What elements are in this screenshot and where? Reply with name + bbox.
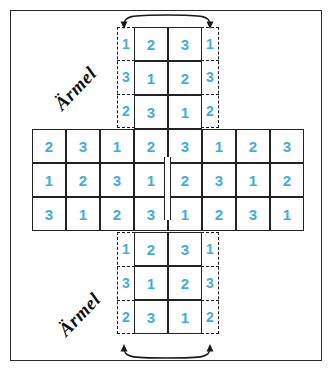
table-cell: 1 [66,197,100,231]
table-cell: 3 [134,300,168,334]
table-cell: 1 [134,61,168,95]
table-cell: 2 [168,163,202,197]
table-cell: 3 [168,129,202,163]
table-cell: 3 [134,95,168,129]
top-left-margin-value-1: 1 [117,27,135,60]
center-seam-line [164,157,171,220]
table-cell: 2 [134,232,168,266]
table-cell: 1 [236,163,270,197]
table-cell: 2 [66,163,100,197]
table-cell: 2 [270,163,304,197]
table-cell: 3 [168,232,202,266]
table-cell: 3 [270,129,304,163]
table-cell: 1 [134,163,168,197]
table-cell: 3 [32,197,66,231]
sleeve-label-top: Ärmel [50,63,101,115]
pattern-stage: 1 3 2 1 3 2 2 3 1 2 3 1 2 3 1 2 3 1 2 3 … [0,0,334,373]
bottom-right-margin-value-1: 1 [201,232,219,266]
table-cell: 2 [134,27,168,61]
table-cell: 2 [236,129,270,163]
bottom-right-margin-value-3: 2 [201,300,219,334]
table-cell: 3 [66,129,100,163]
bottom-arrowhead-right [207,344,214,352]
table-cell: 2 [168,266,202,300]
table-cell: 3 [168,27,202,61]
table-cell: 2 [134,129,168,163]
bottom-arc-path [124,348,210,358]
table-cell: 2 [100,197,134,231]
top-right-margin-value-1: 1 [201,27,219,60]
table-cell: 1 [100,129,134,163]
bottom-left-margin-value-1: 1 [117,232,135,266]
table-cell: 1 [168,95,202,129]
table-cell: 1 [134,266,168,300]
table-cell: 1 [168,300,202,334]
bottom-arrowhead-left [121,344,128,352]
diagram-canvas: 1 3 2 1 3 2 2 3 1 2 3 1 2 3 1 2 3 1 2 3 … [0,0,334,373]
table-cell: 1 [32,163,66,197]
top-left-margin-value-3: 2 [117,94,135,128]
top-left-margin-value-2: 3 [117,60,135,94]
table-cell: 2 [168,61,202,95]
top-right-margin-value-2: 3 [201,60,219,94]
table-cell: 3 [100,163,134,197]
table-cell: 1 [168,197,202,231]
table-cell: 1 [202,129,236,163]
sleeve-label-bottom: Ärmel [54,289,105,341]
table-cell: 3 [236,197,270,231]
table-cell: 3 [134,197,168,231]
table-cell: 2 [32,129,66,163]
bottom-left-margin-value-3: 2 [117,300,135,334]
top-right-margin-value-3: 2 [201,94,219,128]
bottom-left-margin-value-2: 3 [117,266,135,300]
bottom-right-margin-value-2: 3 [201,266,219,300]
table-cell: 2 [202,197,236,231]
table-cell: 1 [270,197,304,231]
table-cell: 3 [202,163,236,197]
top-arc-path [124,15,210,25]
